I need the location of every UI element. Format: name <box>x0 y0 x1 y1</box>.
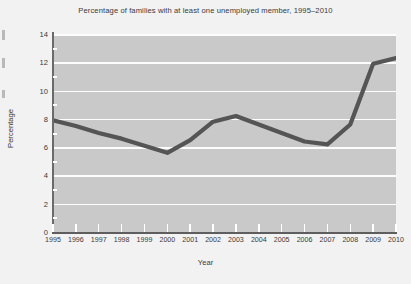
xtick-mark <box>281 224 283 232</box>
xtick-mark <box>350 224 352 232</box>
ytick-mark <box>53 133 57 135</box>
xtick-mark <box>189 224 191 232</box>
ytick-label: 8 <box>24 115 48 124</box>
edge-artifact-mark <box>2 30 5 40</box>
chart-title: Percentage of families with at least one… <box>0 6 411 15</box>
edge-artifact-mark <box>2 90 5 98</box>
ytick-mark <box>53 189 57 191</box>
chart-figure: Percentage of families with at least one… <box>0 0 411 284</box>
xtick-mark <box>395 224 397 232</box>
ytick-mark <box>53 161 57 163</box>
xtick-mark <box>372 224 374 232</box>
xtick-mark <box>144 224 146 232</box>
xtick-mark <box>212 224 214 232</box>
xtick-label: 2010 <box>381 236 411 244</box>
xtick-mark <box>235 224 237 232</box>
ytick-mark <box>53 217 57 219</box>
xtick-mark <box>327 224 329 232</box>
x-axis-line <box>52 232 397 234</box>
ytick-mark <box>53 48 57 50</box>
ytick-label: 6 <box>24 143 48 152</box>
xtick-mark <box>121 224 123 232</box>
ytick-mark <box>53 76 57 78</box>
edge-artifact-mark <box>2 58 5 68</box>
xtick-mark <box>75 224 77 232</box>
xtick-mark <box>98 224 100 232</box>
xtick-mark <box>167 224 169 232</box>
ytick-mark <box>53 104 57 106</box>
ytick-label: 4 <box>24 171 48 180</box>
ytick-label: 12 <box>24 58 48 67</box>
ytick-label: 2 <box>24 200 48 209</box>
xtick-mark <box>52 224 54 232</box>
xtick-mark <box>258 224 260 232</box>
x-axis-title: Year <box>0 258 411 267</box>
ytick-label: 10 <box>24 87 48 96</box>
xtick-mark <box>304 224 306 232</box>
data-series-line <box>53 34 396 232</box>
ytick-label: 14 <box>24 30 48 39</box>
y-axis-title: Percentage <box>6 99 15 159</box>
